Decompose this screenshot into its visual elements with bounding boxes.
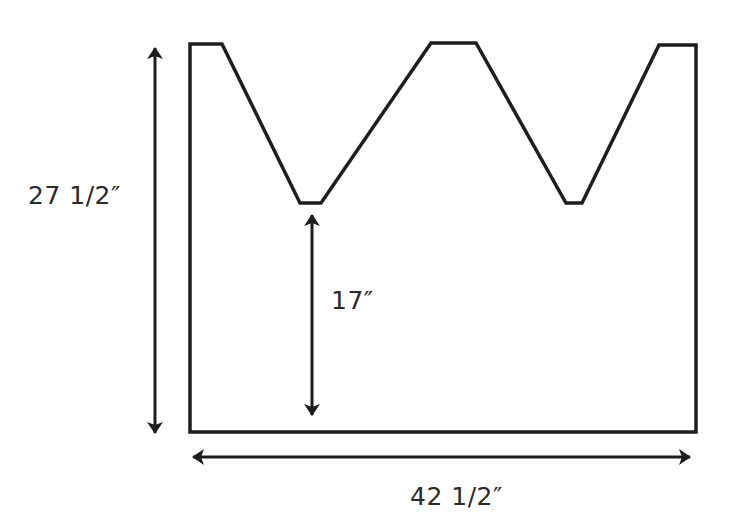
valley-height-dimension-label: 17″ [331,288,374,313]
height-dimension-label: 27 1/2″ [28,183,121,208]
panel-outline [190,43,696,432]
pattern-diagram [0,0,740,513]
width-dimension-label: 42 1/2″ [410,484,503,509]
